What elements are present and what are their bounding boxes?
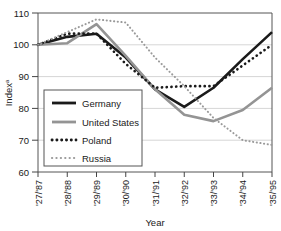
svg-text:'30/'90: '30/'90 [121,180,131,206]
y-axis-title-superscript: a [4,79,10,83]
y-axis-title: Indexa [3,79,14,106]
svg-text:'34/'94: '34/'94 [238,180,248,206]
x-tick-label: '31/'91 [151,180,161,206]
x-axis-title: Year [145,217,164,228]
svg-text:'33/'93: '33/'93 [209,180,219,206]
y-tick-label: 80 [18,103,29,114]
y-axis-title-text: Index [3,83,14,106]
x-tick-label: '27/'87 [34,180,44,206]
legend-label-united-states: United States [82,117,139,128]
y-tick-label: 110 [14,8,29,19]
svg-text:'32/'92: '32/'92 [180,180,190,206]
svg-text:'31/'91: '31/'91 [151,180,161,206]
svg-text:'35/'95: '35/'95 [268,180,278,206]
x-tick-labels: '27/'87'28/'88'29/'89'30/'90'31/'91'32/'… [34,180,278,206]
legend-label-poland: Poland [82,135,112,146]
y-tick-label: 60 [18,167,29,178]
x-tick-label: '29/'89 [92,180,102,206]
x-tick-label: '30/'90 [121,180,131,206]
legend-label-russia: Russia [82,153,112,164]
svg-text:'28/'88: '28/'88 [63,180,73,206]
legend-label-germany: Germany [82,98,121,109]
x-tick-label: '28/'88 [63,180,73,206]
legend: Germany United States Poland Russia [44,90,142,166]
svg-text:Indexa: Indexa [3,79,14,106]
svg-text:'29/'89: '29/'89 [92,180,102,206]
y-tick-label: 90 [18,71,29,82]
chart-figure: 110 100 90 80 70 60 Indexa '27/'87'28/'8… [0,0,281,231]
svg-text:'27/'87: '27/'87 [34,180,44,206]
y-tick-label: 100 [13,39,29,50]
x-tick-label: '35/'95 [268,180,278,206]
y-tick-label: 70 [18,135,29,146]
y-tick-marks [32,13,38,172]
x-tick-marks [38,172,272,177]
x-tick-label: '34/'94 [238,180,248,206]
line-chart-canvas: 110 100 90 80 70 60 Indexa '27/'87'28/'8… [0,0,281,231]
x-tick-label: '32/'92 [180,180,190,206]
x-tick-label: '33/'93 [209,180,219,206]
